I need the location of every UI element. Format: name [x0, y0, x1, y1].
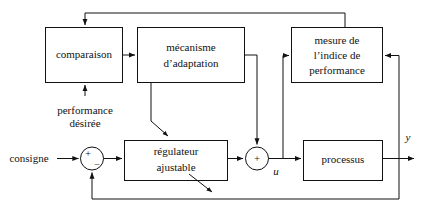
label-sum-minus-left: −	[94, 159, 100, 170]
label-regulateur-line1: régulateur	[154, 145, 199, 157]
label-signal-u: u	[273, 165, 279, 177]
wire-y-branch-to-mesure	[385, 56, 399, 159]
wire-mecanisme-to-sum	[245, 55, 258, 145]
label-performance-desiree-line2: désirée	[69, 117, 100, 129]
label-mecanisme-line2: d’adaptation	[164, 57, 219, 69]
summing-junction-error	[81, 147, 104, 170]
wire-mesure-to-comparaison	[85, 13, 345, 28]
label-regulateur-line2: ajustable	[156, 161, 195, 173]
label-comparaison: comparaison	[56, 48, 113, 60]
label-mesure-line1: mesure de	[315, 34, 360, 46]
label-signal-y: y	[405, 131, 411, 143]
label-consigne: consigne	[9, 152, 48, 164]
wire-adaptation-to-regulateur	[151, 83, 168, 137]
block-mecanisme-adaptation	[138, 28, 245, 83]
block-diagram-canvas: comparaison mécanisme d’adaptation mesur…	[0, 0, 423, 208]
label-mecanisme-line1: mécanisme	[166, 41, 216, 53]
label-performance-desiree-line1: performance	[57, 104, 113, 116]
label-mesure-line3: performance	[309, 64, 365, 76]
label-mesure-line2: l’indice de	[314, 49, 361, 61]
wire-u-branch-to-mesure	[283, 56, 289, 159]
label-processus: processus	[322, 153, 365, 165]
label-sum-plus-mid: +	[254, 153, 260, 164]
label-sum-plus-left: +	[85, 148, 91, 159]
control-system-diagram: comparaison mécanisme d’adaptation mesur…	[0, 0, 423, 208]
